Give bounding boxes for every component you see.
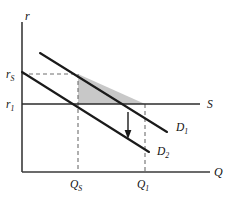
- demand-curve-2-label: D2: [156, 145, 169, 160]
- y-tick-r-s-subscript: S: [10, 74, 14, 83]
- supply-curve-label: S: [207, 98, 213, 110]
- demand-2-label-subscript: 2: [165, 151, 169, 160]
- y-tick-label-r-s: rS: [6, 68, 14, 83]
- x-tick-q-s-subscript: S: [78, 184, 82, 193]
- demand-curve-1: [40, 53, 167, 132]
- diagram-canvas: r Q rS r1 QS Q1 S D1 D2: [0, 0, 233, 200]
- supply-demand-diagram: r Q rS r1 QS Q1 S D1 D2: [0, 0, 233, 200]
- x-axis-label: Q: [214, 165, 223, 179]
- x-tick-q-1-subscript: 1: [145, 184, 149, 193]
- y-tick-label-r-1: r1: [6, 98, 14, 113]
- x-tick-label-q-1: Q1: [137, 178, 149, 193]
- demand-curve-1-label: D1: [175, 121, 188, 136]
- demand-1-label-subscript: 1: [184, 127, 188, 136]
- y-axis-label: r: [25, 9, 30, 23]
- deadweight-triangle: [78, 74, 145, 104]
- y-tick-r-1-subscript: 1: [10, 104, 14, 113]
- x-tick-label-q-s: QS: [70, 178, 82, 193]
